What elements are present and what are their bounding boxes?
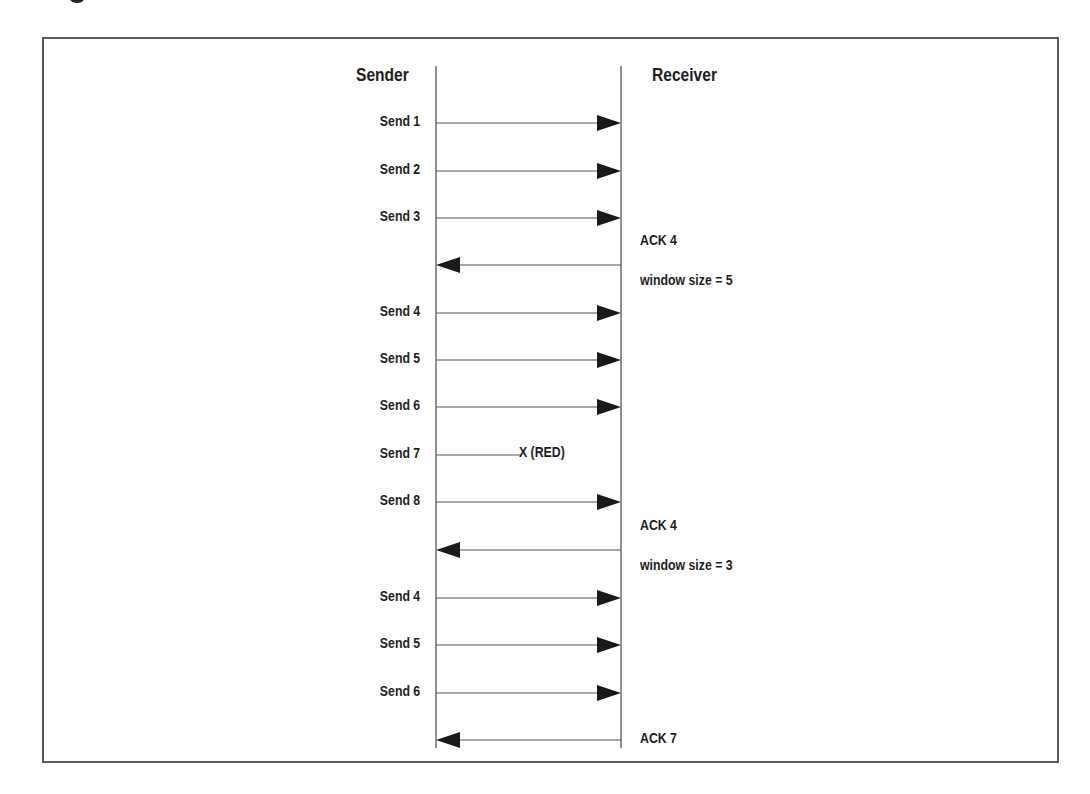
ack-arrow	[436, 732, 621, 748]
arrowhead-left-icon	[436, 542, 460, 558]
send-label: Send 5	[380, 349, 420, 366]
arrowhead-right-icon	[597, 163, 621, 179]
ack-label: ACK 4	[640, 516, 677, 533]
send-arrow	[436, 352, 621, 368]
lost-packet-marker: X (RED)	[519, 443, 565, 460]
send-arrow	[436, 210, 621, 226]
send-label: Send 2	[380, 160, 420, 177]
send-label: Send 6	[380, 396, 420, 413]
arrowhead-right-icon	[597, 115, 621, 131]
send-label: Send 6	[380, 682, 420, 699]
ack-label: ACK 7	[640, 729, 677, 746]
ack-label: ACK 4	[640, 231, 677, 248]
send-label: Send 1	[380, 112, 420, 129]
arrowhead-right-icon	[597, 399, 621, 415]
arrowhead-right-icon	[597, 352, 621, 368]
arrowhead-right-icon	[597, 210, 621, 226]
ack-arrow	[436, 257, 621, 273]
send-label: Send 4	[380, 302, 420, 319]
send-arrow	[436, 685, 621, 701]
send-label: Send 7	[380, 444, 420, 461]
arrowhead-left-icon	[436, 257, 460, 273]
ack-arrow	[436, 542, 621, 558]
send-label: Send 3	[380, 207, 420, 224]
send-arrow	[436, 115, 621, 131]
arrowhead-right-icon	[597, 494, 621, 510]
send-arrow	[436, 494, 621, 510]
arrowhead-right-icon	[597, 685, 621, 701]
arrowhead-right-icon	[597, 637, 621, 653]
arrowhead-right-icon	[597, 590, 621, 606]
send-label: Send 4	[380, 587, 420, 604]
send-arrow	[436, 590, 621, 606]
window-size-annotation: window size = 5	[640, 271, 733, 288]
arrowhead-right-icon	[597, 305, 621, 321]
send-arrow	[436, 305, 621, 321]
send-arrow	[436, 637, 621, 653]
send-arrow	[436, 163, 621, 179]
send-label: Send 5	[380, 634, 420, 651]
send-arrow	[436, 399, 621, 415]
window-size-annotation: window size = 3	[640, 556, 733, 573]
arrowhead-left-icon	[436, 732, 460, 748]
sequence-diagram	[0, 0, 1090, 794]
send-label: Send 8	[380, 491, 420, 508]
